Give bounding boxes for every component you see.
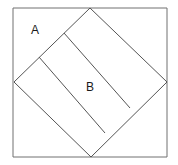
- region-label-b: B: [86, 81, 94, 93]
- region-label-a: A: [31, 24, 39, 36]
- geometry-figure: A B: [0, 0, 178, 165]
